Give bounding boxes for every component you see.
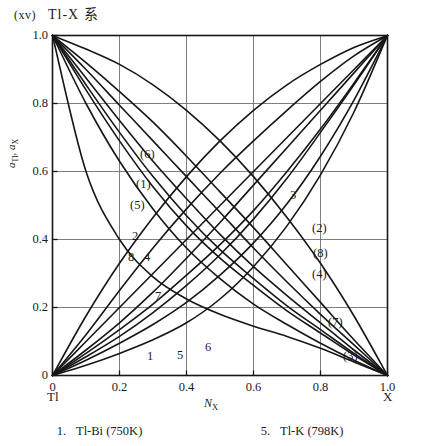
curve-annotation: (3) (343, 350, 358, 363)
x-axis-ticks: 00.20.40.60.81.0 (0, 0, 422, 446)
y-axis-label: aTl, aX (5, 139, 20, 168)
legend-entry: 1.Tl-Bi (750K) (54, 424, 142, 439)
y-axis-label-a2: a (5, 144, 17, 150)
endpoint-label-x: X (383, 389, 392, 405)
curve-annotation: (7) (328, 316, 343, 329)
curve-annotation: (2) (312, 222, 327, 235)
legend-entry-label: Tl-K (798K) (280, 424, 344, 439)
y-axis-label-sub2: X (11, 139, 20, 145)
curve-annotation: 2 (132, 230, 138, 243)
legend-entry-label: Tl-Bi (750K) (76, 424, 142, 439)
y-axis-label-sep: , (5, 150, 17, 156)
x-tick-label: 0.8 (301, 380, 341, 395)
curve-annotation: (1) (136, 178, 151, 191)
curve-annotation: (5) (130, 199, 145, 212)
curve-annotation: 4 (144, 251, 150, 264)
legend-entry-number: 5. (258, 424, 270, 439)
legend-entry-number: 1. (54, 424, 66, 439)
y-axis-label-sub1: Tl (11, 155, 20, 162)
curve-annotation: 3 (290, 189, 296, 202)
y-axis-label-a1: a (5, 163, 17, 169)
curve-annotation: (4) (312, 268, 327, 281)
x-tick-label: 0.4 (167, 380, 207, 395)
endpoint-label-tl: Tl (47, 389, 59, 405)
curve-annotation: 1 (147, 350, 153, 363)
activity-diagram: 1.00.80.60.40.20 00.20.40.60.81.0 aTl, a… (0, 0, 422, 446)
legend-entry: 5.Tl-K (798K) (258, 424, 344, 439)
x-tick-label: 0.2 (100, 380, 140, 395)
curve-annotation: (6) (140, 148, 155, 161)
legend: 1.Tl-Bi (750K)5.Tl-K (798K) (0, 424, 422, 446)
curve-annotation: 5 (177, 349, 183, 362)
x-axis-label-sub: X (212, 402, 218, 412)
curve-annotation: 8 (128, 251, 134, 264)
x-tick-label: 0.6 (234, 380, 274, 395)
curve-annotation: (8) (313, 247, 328, 260)
curve-annotation: 7 (155, 290, 161, 303)
x-axis-label: NX (0, 396, 422, 412)
x-axis-label-main: N (204, 396, 212, 410)
curve-annotation: 6 (205, 341, 211, 354)
